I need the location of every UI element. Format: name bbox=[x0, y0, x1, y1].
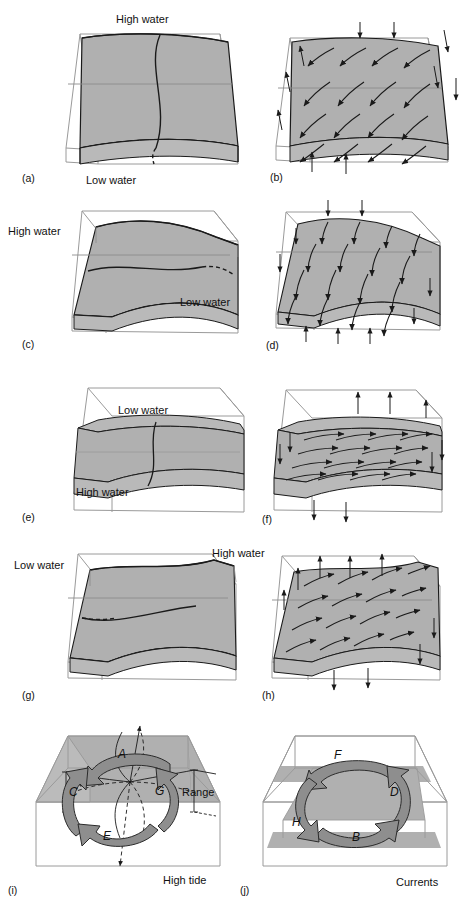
panel-c bbox=[66, 205, 256, 345]
panel-i-tag: (i) bbox=[8, 885, 17, 896]
panel-i-range-label: Range bbox=[182, 787, 214, 798]
panel-g bbox=[62, 548, 254, 696]
panel-j bbox=[255, 720, 460, 890]
panel-a-low-water-label: Low water bbox=[86, 175, 136, 186]
panel-h-tag: (h) bbox=[262, 690, 275, 701]
panel-e-low-water-label: Low water bbox=[118, 405, 168, 416]
panel-b-tag: (b) bbox=[270, 172, 283, 183]
panel-j-arrow-label-h: H bbox=[292, 817, 301, 828]
panel-d bbox=[262, 200, 462, 348]
panel-a-high-water-label: High water bbox=[116, 14, 169, 25]
tidal-standing-wave-figure: High water Low water (a) bbox=[0, 0, 465, 915]
panel-i bbox=[30, 720, 230, 890]
panel-i-arrow-label-g: G bbox=[155, 786, 164, 797]
panel-d-tag: (d) bbox=[266, 340, 279, 351]
panel-j-arrow-label-d: D bbox=[390, 787, 399, 798]
panel-a-tag: (a) bbox=[22, 173, 35, 184]
panel-g-high-water-label: High water bbox=[212, 548, 265, 559]
panel-c-low-water-label: Low water bbox=[180, 297, 230, 308]
panel-j-currents-label: Currents bbox=[396, 877, 438, 888]
panel-c-tag: (c) bbox=[22, 339, 34, 350]
panel-i-arrow-label-e: E bbox=[103, 831, 111, 842]
panel-i-arrow-label-a: A bbox=[118, 749, 126, 760]
panel-j-arrow-label-b: B bbox=[352, 832, 360, 843]
panel-f bbox=[258, 378, 460, 526]
panel-e-tag: (e) bbox=[22, 512, 35, 523]
panel-a bbox=[60, 22, 245, 177]
panel-c-high-water-label: High water bbox=[8, 226, 61, 237]
panel-j-tag: (j) bbox=[240, 885, 249, 896]
panel-b bbox=[268, 22, 463, 180]
panel-e-high-water-label: High water bbox=[76, 487, 129, 498]
panel-f-tag: (f) bbox=[262, 514, 272, 525]
panel-i-high-tide-label: High tide bbox=[163, 875, 206, 886]
panel-i-arrow-label-c: C bbox=[69, 787, 78, 798]
panel-j-arrow-label-f: F bbox=[334, 750, 341, 761]
panel-g-low-water-label: Low water bbox=[14, 560, 64, 571]
panel-g-tag: (g) bbox=[22, 690, 35, 701]
panel-h bbox=[258, 546, 460, 696]
